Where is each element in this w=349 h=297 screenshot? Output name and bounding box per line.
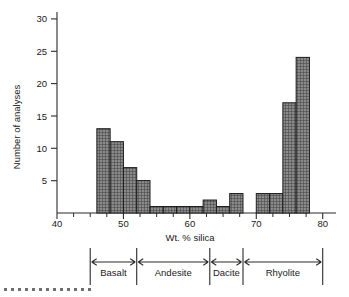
y-tick-label: 15 (36, 111, 47, 122)
x-axis-title: Wt. % silica (165, 232, 215, 243)
silica-histogram-chart: Number of analyses 5 10 15 20 25 30 (0, 0, 349, 297)
rock-class-label: Basalt (100, 267, 127, 278)
footer-dot (74, 288, 77, 291)
footer-dot (60, 288, 63, 291)
histogram-bar (283, 103, 296, 213)
footer-dot (32, 288, 35, 291)
footer-dot (67, 288, 70, 291)
histogram-bar (163, 207, 176, 213)
y-axis-title: Number of analyses (11, 85, 22, 170)
footer-dot (25, 288, 28, 291)
footer-dot (39, 288, 42, 291)
y-axis-tick-labels: 5 10 15 20 25 30 (36, 13, 47, 186)
y-tick-label: 20 (36, 78, 47, 89)
histogram-bar (296, 57, 309, 213)
footer-dot (11, 288, 14, 291)
histogram-bar (110, 142, 123, 213)
y-tick-label: 25 (36, 46, 47, 57)
x-tick-label: 70 (251, 218, 262, 229)
y-tick-label: 5 (42, 175, 47, 186)
y-tick-label: 30 (36, 13, 47, 24)
footer-dot (4, 288, 7, 291)
footer-dot (88, 288, 91, 291)
histogram-bar (216, 207, 229, 213)
histogram-bar (270, 194, 283, 213)
histogram-bar (256, 194, 269, 213)
rock-class-arrow (92, 259, 135, 265)
footer-dot (46, 288, 49, 291)
footer-dot (81, 288, 84, 291)
histogram-bar (97, 129, 110, 213)
histogram-bar (190, 207, 203, 213)
x-tick-label: 80 (317, 218, 328, 229)
footer-dot-row (4, 288, 91, 291)
rock-class-arrow (138, 259, 208, 265)
histogram-bar (230, 194, 243, 213)
rock-class-label: Dacite (213, 267, 240, 278)
x-tick-label: 60 (185, 218, 196, 229)
rock-class-arrow (245, 259, 322, 265)
y-tick-label: 10 (36, 143, 47, 154)
rock-class-label: Andesite (155, 267, 192, 278)
rock-class-legend: BasaltAndesiteDaciteRhyolite (90, 248, 323, 285)
footer-dot (18, 288, 21, 291)
histogram-bar (203, 200, 216, 213)
rock-class-label: Rhyolite (266, 267, 300, 278)
histogram-figure: Number of analyses 5 10 15 20 25 30 (0, 0, 349, 297)
footer-dot (53, 288, 56, 291)
histogram-bar (150, 207, 163, 213)
y-axis-ticks (51, 19, 57, 181)
histogram-bar (177, 207, 190, 213)
histogram-bar (137, 181, 150, 213)
x-tick-label: 40 (52, 218, 63, 229)
histogram-bar (123, 168, 136, 213)
x-axis-tick-labels: 40 50 60 70 80 (52, 218, 328, 229)
x-tick-label: 50 (118, 218, 129, 229)
rock-class-arrow (211, 259, 241, 265)
histogram-bars (97, 57, 310, 213)
